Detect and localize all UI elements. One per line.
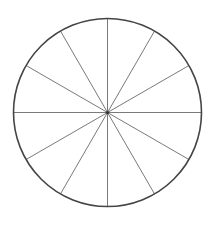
spoke-line [26, 66, 107, 113]
center-hub [106, 111, 109, 114]
spoke-line [61, 113, 108, 194]
spoke-line [108, 31, 155, 112]
spoke-line [61, 31, 108, 112]
spoke-line [108, 66, 189, 113]
spoke-line [108, 113, 155, 194]
segmented-circle-diagram [0, 0, 217, 230]
spoke-line [108, 113, 189, 160]
spoke-line [26, 113, 107, 160]
